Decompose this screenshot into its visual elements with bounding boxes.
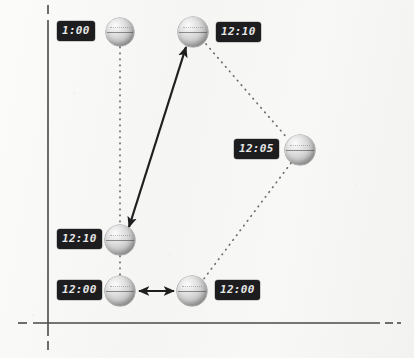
clock-sphere-top-left[interactable] (106, 18, 134, 46)
clock-sphere-bottom-right[interactable] (177, 276, 207, 306)
clock-sphere-mid-left[interactable] (105, 225, 135, 255)
clock-label-bottom-left: 12:00 (57, 280, 102, 300)
clock-label-bottom-right: 12:00 (215, 280, 260, 300)
diagram-canvas: 1:00 12:10 12:05 12:10 12:00 12:00 (0, 0, 414, 358)
clock-label-right: 12:05 (234, 139, 279, 159)
clock-sphere-bottom-left[interactable] (105, 276, 135, 306)
dotted-connectors (120, 44, 291, 280)
clock-label-top-middle: 12:10 (216, 22, 261, 42)
arrow-diagonal (129, 47, 186, 227)
diagram-vector-layer (0, 0, 414, 358)
solid-arrows (129, 47, 186, 291)
clock-label-top-left: 1:00 (57, 21, 95, 41)
dotted-right-to-bottom (203, 163, 291, 280)
dotted-top-to-right (206, 44, 288, 139)
clock-sphere-right[interactable] (285, 135, 315, 165)
clock-sphere-top-middle[interactable] (178, 17, 208, 47)
clock-label-mid-left: 12:10 (57, 229, 102, 249)
